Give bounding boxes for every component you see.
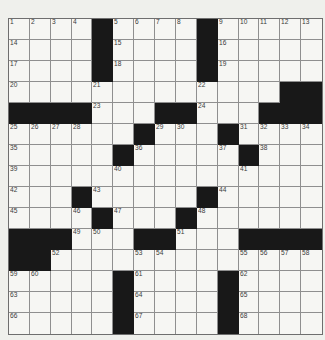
grid-cell[interactable]: 61 xyxy=(134,271,155,292)
grid-cell[interactable] xyxy=(280,313,301,334)
grid-cell[interactable]: 38 xyxy=(259,145,280,166)
grid-cell[interactable]: 67 xyxy=(134,313,155,334)
grid-cell[interactable] xyxy=(113,187,134,208)
grid-cell[interactable]: 27 xyxy=(51,124,72,145)
grid-cell[interactable]: 60 xyxy=(30,271,51,292)
grid-cell[interactable] xyxy=(280,40,301,61)
grid-cell[interactable] xyxy=(92,313,113,334)
grid-cell[interactable]: 6 xyxy=(134,19,155,40)
grid-cell[interactable]: 31 xyxy=(239,124,260,145)
grid-cell[interactable]: 21 xyxy=(92,82,113,103)
grid-cell[interactable] xyxy=(280,61,301,82)
grid-cell[interactable] xyxy=(197,313,218,334)
grid-cell[interactable] xyxy=(197,229,218,250)
grid-cell[interactable]: 9 xyxy=(218,19,239,40)
grid-cell[interactable] xyxy=(134,208,155,229)
grid-cell[interactable]: 52 xyxy=(51,250,72,271)
grid-cell[interactable] xyxy=(72,40,93,61)
grid-cell[interactable] xyxy=(197,250,218,271)
grid-cell[interactable] xyxy=(155,271,176,292)
grid-cell[interactable] xyxy=(92,145,113,166)
grid-cell[interactable]: 66 xyxy=(9,313,30,334)
grid-cell[interactable] xyxy=(92,292,113,313)
grid-cell[interactable] xyxy=(280,271,301,292)
grid-cell[interactable]: 18 xyxy=(113,61,134,82)
grid-cell[interactable] xyxy=(301,208,322,229)
grid-cell[interactable] xyxy=(155,166,176,187)
grid-cell[interactable] xyxy=(176,271,197,292)
grid-cell[interactable]: 11 xyxy=(259,19,280,40)
grid-cell[interactable]: 14 xyxy=(9,40,30,61)
grid-cell[interactable] xyxy=(239,82,260,103)
grid-cell[interactable] xyxy=(197,124,218,145)
grid-cell[interactable] xyxy=(92,124,113,145)
grid-cell[interactable]: 4 xyxy=(72,19,93,40)
grid-cell[interactable] xyxy=(51,61,72,82)
grid-cell[interactable] xyxy=(30,208,51,229)
grid-cell[interactable]: 47 xyxy=(113,208,134,229)
grid-cell[interactable]: 22 xyxy=(197,82,218,103)
grid-cell[interactable]: 15 xyxy=(113,40,134,61)
grid-cell[interactable] xyxy=(155,145,176,166)
grid-cell[interactable]: 65 xyxy=(239,292,260,313)
grid-cell[interactable]: 5 xyxy=(113,19,134,40)
grid-cell[interactable] xyxy=(301,187,322,208)
grid-cell[interactable] xyxy=(197,292,218,313)
grid-cell[interactable] xyxy=(259,166,280,187)
grid-cell[interactable]: 63 xyxy=(9,292,30,313)
grid-cell[interactable]: 55 xyxy=(239,250,260,271)
grid-cell[interactable]: 24 xyxy=(197,103,218,124)
grid-cell[interactable] xyxy=(218,208,239,229)
grid-cell[interactable] xyxy=(134,82,155,103)
grid-cell[interactable]: 34 xyxy=(301,124,322,145)
grid-cell[interactable] xyxy=(259,187,280,208)
grid-cell[interactable] xyxy=(30,313,51,334)
grid-cell[interactable] xyxy=(301,61,322,82)
grid-cell[interactable]: 1 xyxy=(9,19,30,40)
grid-cell[interactable] xyxy=(301,292,322,313)
grid-cell[interactable] xyxy=(280,208,301,229)
grid-cell[interactable]: 48 xyxy=(197,208,218,229)
grid-cell[interactable] xyxy=(239,40,260,61)
grid-cell[interactable]: 36 xyxy=(134,145,155,166)
grid-cell[interactable]: 43 xyxy=(92,187,113,208)
grid-cell[interactable] xyxy=(113,250,134,271)
grid-cell[interactable] xyxy=(176,61,197,82)
grid-cell[interactable] xyxy=(113,82,134,103)
grid-cell[interactable] xyxy=(301,313,322,334)
grid-cell[interactable]: 57 xyxy=(280,250,301,271)
grid-cell[interactable]: 17 xyxy=(9,61,30,82)
grid-cell[interactable]: 10 xyxy=(239,19,260,40)
grid-cell[interactable] xyxy=(51,82,72,103)
grid-cell[interactable]: 53 xyxy=(134,250,155,271)
grid-cell[interactable] xyxy=(30,292,51,313)
grid-cell[interactable]: 2 xyxy=(30,19,51,40)
grid-cell[interactable] xyxy=(197,145,218,166)
grid-cell[interactable] xyxy=(72,292,93,313)
grid-cell[interactable] xyxy=(176,82,197,103)
grid-cell[interactable]: 28 xyxy=(72,124,93,145)
grid-cell[interactable] xyxy=(72,271,93,292)
grid-cell[interactable]: 12 xyxy=(280,19,301,40)
grid-cell[interactable] xyxy=(197,271,218,292)
grid-cell[interactable] xyxy=(155,208,176,229)
grid-cell[interactable]: 26 xyxy=(30,124,51,145)
grid-cell[interactable] xyxy=(92,250,113,271)
grid-cell[interactable] xyxy=(30,145,51,166)
grid-cell[interactable] xyxy=(218,229,239,250)
grid-cell[interactable] xyxy=(72,145,93,166)
grid-cell[interactable] xyxy=(134,187,155,208)
grid-cell[interactable]: 39 xyxy=(9,166,30,187)
grid-cell[interactable] xyxy=(301,40,322,61)
grid-cell[interactable] xyxy=(134,61,155,82)
grid-cell[interactable] xyxy=(155,187,176,208)
grid-cell[interactable] xyxy=(51,208,72,229)
grid-cell[interactable]: 25 xyxy=(9,124,30,145)
grid-cell[interactable]: 42 xyxy=(9,187,30,208)
grid-cell[interactable]: 13 xyxy=(301,19,322,40)
grid-cell[interactable] xyxy=(72,82,93,103)
grid-cell[interactable] xyxy=(51,187,72,208)
grid-cell[interactable]: 23 xyxy=(92,103,113,124)
grid-cell[interactable]: 46 xyxy=(72,208,93,229)
grid-cell[interactable] xyxy=(280,292,301,313)
